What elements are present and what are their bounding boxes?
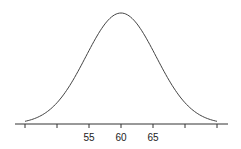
x-tick-label: 65 <box>147 132 159 143</box>
density-curve <box>25 13 217 121</box>
x-tick-label: 55 <box>83 132 95 143</box>
normal-curve-chart: 556065 <box>0 0 241 149</box>
x-tick-label: 60 <box>115 132 127 143</box>
